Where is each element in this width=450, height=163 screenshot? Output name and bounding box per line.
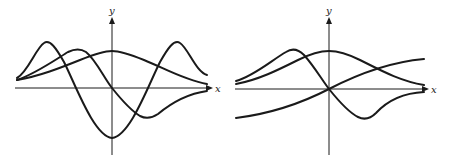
curve-bell [236,51,424,85]
y-axis-label: y [108,5,115,16]
figure: x y x y [0,0,450,163]
x-axis-label: x [431,84,437,95]
x-axis-label: x [215,83,221,94]
curve-odd [236,50,424,119]
left-panel: x y [15,5,221,155]
y-axis-label: y [325,5,332,16]
y-axis-arrow-icon [326,17,332,24]
right-panel: x y [235,5,437,155]
y-axis-arrow-icon [109,17,115,24]
